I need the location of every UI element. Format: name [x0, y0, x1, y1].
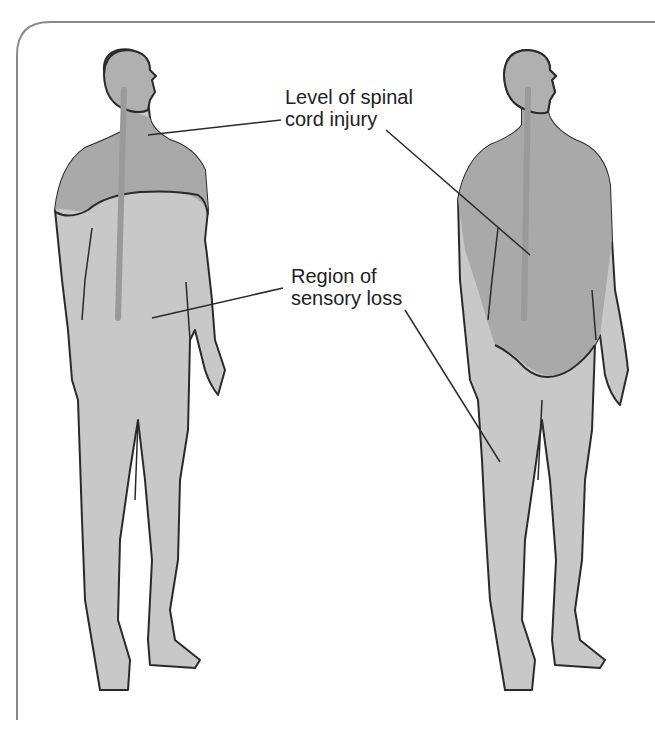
- sensory-loss-line1: Region of: [291, 265, 402, 287]
- cervical-injury-figure: [55, 49, 225, 690]
- injury-level-line2: cord injury: [285, 108, 413, 130]
- injury-level-label: Level of spinal cord injury: [285, 86, 413, 130]
- sensory-loss-line2: sensory loss: [291, 287, 402, 309]
- left-figure-head: [104, 50, 156, 112]
- diagram-frame: Level of spinal cord injury Region of se…: [0, 0, 655, 733]
- injury-level-line1: Level of spinal: [285, 86, 413, 108]
- injury-leader-left: [148, 120, 281, 135]
- right-figure-spine: [524, 90, 528, 318]
- sensory-loss-label: Region of sensory loss: [291, 265, 402, 309]
- thoracic-injury-figure: [458, 50, 628, 690]
